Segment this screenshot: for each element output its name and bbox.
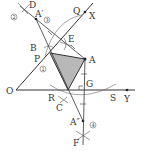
label-S: S [110, 93, 116, 103]
geometry-diagram: O A A′ A″ B P C D E F G Q R S X Y 1 2 3 … [0, 0, 143, 151]
label-Aprime: A′ [34, 9, 44, 19]
arc-C [58, 96, 68, 103]
label-B: B [30, 43, 37, 53]
label-O: O [6, 86, 13, 96]
point-Q-dot [84, 11, 87, 14]
label-F: F [73, 138, 79, 148]
step-3: 3 [46, 17, 49, 23]
right-angle-G [79, 86, 83, 90]
step-2: 2 [13, 14, 16, 20]
label-X: X [89, 11, 96, 21]
ray-OX [16, 3, 93, 90]
label-Y: Y [123, 94, 131, 104]
label-Q: Q [73, 6, 80, 16]
arc-RS [50, 84, 116, 95]
label-R: R [48, 93, 55, 103]
label-A: A [88, 55, 96, 65]
shaded-triangle [50, 53, 85, 90]
label-Adoubleprime: A″ [69, 117, 80, 127]
step-4: 4 [92, 122, 95, 128]
point-A-dot [84, 58, 87, 61]
step-1: 1 [42, 66, 45, 72]
line-A-F [83, 59, 85, 145]
label-C: C [56, 103, 63, 113]
label-D: D [29, 0, 36, 10]
label-P: P [34, 54, 40, 64]
point-Y-dot [126, 89, 129, 92]
label-E: E [68, 34, 75, 44]
label-G: G [86, 79, 93, 89]
